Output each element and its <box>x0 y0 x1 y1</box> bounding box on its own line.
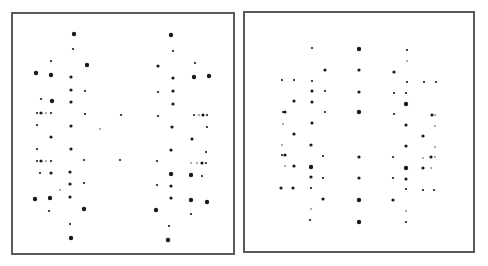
diffraction-spot <box>34 71 38 75</box>
diffraction-spot <box>169 33 173 37</box>
diffraction-spot <box>393 113 395 115</box>
diffraction-spot <box>59 189 60 190</box>
diffraction-spot <box>39 172 41 174</box>
diffraction-spot <box>36 160 38 162</box>
diffraction-spot <box>49 73 53 77</box>
diffraction-spot <box>324 90 326 92</box>
diffraction-spot <box>281 79 283 81</box>
diffraction-spot <box>311 80 313 82</box>
diffraction-spot <box>404 166 408 170</box>
diffraction-spot <box>205 162 207 164</box>
diffraction-spot <box>404 102 408 106</box>
diffraction-spot <box>171 89 174 92</box>
diffraction-spot <box>207 74 211 78</box>
diffraction-spot <box>156 64 159 67</box>
diffraction-spot <box>200 161 203 164</box>
diffraction-spot <box>72 32 76 36</box>
diffraction-spot <box>405 210 406 211</box>
diffraction-spot <box>69 75 72 78</box>
diffraction-spot <box>357 110 361 114</box>
diffraction-spot <box>434 146 435 147</box>
diffraction-spot <box>406 49 408 51</box>
diffraction-spot <box>421 134 424 137</box>
diffraction-spot <box>156 184 158 186</box>
diffraction-spot <box>84 113 86 115</box>
diffraction-spot <box>292 164 295 167</box>
diffraction-spot <box>284 165 285 166</box>
diffraction-spot <box>321 197 324 200</box>
diffraction-spot <box>156 160 158 162</box>
diffraction-spot <box>68 182 71 185</box>
spot-pattern-right <box>245 13 473 251</box>
diffraction-spot <box>434 114 435 115</box>
diffraction-spot <box>392 177 394 179</box>
diffraction-spot <box>421 166 424 169</box>
diffraction-spot <box>154 208 158 212</box>
diffraction-spot <box>310 121 313 124</box>
diffraction-panel-right <box>243 11 475 253</box>
diffraction-spot <box>292 99 295 102</box>
diffraction-spot <box>72 48 74 50</box>
diffraction-spot <box>170 125 173 128</box>
diffraction-spot <box>69 88 72 91</box>
diffraction-spot <box>201 175 203 177</box>
diffraction-spot <box>310 208 311 209</box>
diffraction-spot <box>423 81 425 83</box>
diffraction-spot <box>196 162 197 163</box>
diffraction-spot <box>69 223 71 225</box>
diffraction-spot <box>322 155 324 157</box>
diffraction-spot <box>392 156 394 158</box>
diffraction-spot <box>198 114 199 115</box>
diffraction-spot <box>405 221 407 223</box>
diffraction-spot <box>39 111 42 114</box>
diffraction-spot <box>69 147 72 150</box>
diffraction-spot <box>39 159 42 162</box>
diffraction-spot <box>281 154 283 156</box>
diffraction-spot <box>310 100 313 103</box>
diffraction-spot <box>435 81 437 83</box>
diffraction-spot <box>169 196 172 199</box>
diffraction-spot <box>206 126 208 128</box>
diffraction-spot <box>206 114 208 116</box>
diffraction-panel-left <box>11 12 235 255</box>
diffraction-spot <box>282 123 283 124</box>
diffraction-spot <box>357 220 361 224</box>
diffraction-spot <box>392 70 395 73</box>
diffraction-spot <box>69 100 72 103</box>
diffraction-spot <box>192 75 196 79</box>
diffraction-spot <box>50 99 54 103</box>
diffraction-spot <box>283 110 286 113</box>
diffraction-spot <box>357 198 361 202</box>
diffraction-spot <box>201 113 204 116</box>
diffraction-spot <box>69 124 72 127</box>
diffraction-spot <box>169 148 172 151</box>
diffraction-spot <box>310 187 312 189</box>
diffraction-spot <box>36 124 38 126</box>
diffraction-spot <box>393 92 395 94</box>
diffraction-spot <box>190 137 193 140</box>
diffraction-spot <box>166 238 170 242</box>
diffraction-spot <box>68 195 71 198</box>
diffraction-spot <box>309 143 312 146</box>
diffraction-spot <box>84 90 86 92</box>
diffraction-spot <box>324 111 326 113</box>
diffraction-spot <box>404 123 407 126</box>
diffraction-spot <box>189 173 193 177</box>
diffraction-spot <box>430 113 433 116</box>
diffraction-spot <box>50 160 52 162</box>
diffraction-spot <box>434 156 435 157</box>
diffraction-spot <box>357 47 361 51</box>
diffraction-spot <box>189 198 193 202</box>
diffraction-spot <box>323 68 326 71</box>
diffraction-spot <box>279 186 282 189</box>
diffraction-spot <box>50 112 52 114</box>
diffraction-spot <box>190 213 192 215</box>
diffraction-spot <box>433 189 435 191</box>
diffraction-spot <box>85 63 89 67</box>
diffraction-spot <box>357 68 360 71</box>
diffraction-spot <box>33 197 37 201</box>
diffraction-spot <box>406 81 408 83</box>
diffraction-spot <box>169 172 173 176</box>
diffraction-spot <box>68 170 71 173</box>
diffraction-spot <box>172 50 174 52</box>
